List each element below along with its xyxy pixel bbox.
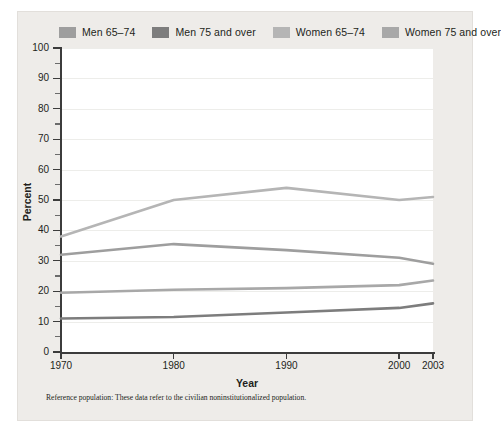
x-tick-label: 2003 [410, 361, 456, 371]
gridline [61, 230, 433, 231]
legend-item-label: Men 65–74 [82, 27, 135, 38]
y-axis-line [60, 47, 62, 353]
legend-swatch-men-65-74 [59, 27, 76, 38]
legend-swatch-women-65-74 [273, 27, 290, 38]
y-tick-label: 100 [19, 43, 49, 53]
y-tick-label: 30 [19, 256, 49, 266]
gridline [61, 291, 433, 292]
gridline [61, 139, 433, 140]
x-axis-title: Year [61, 377, 433, 389]
gridline [61, 109, 433, 110]
y-axis-title: Percent [21, 172, 33, 232]
legend-swatch-men-75-over [152, 27, 169, 38]
gridline [61, 261, 433, 262]
gridline [61, 170, 433, 171]
legend-item[interactable]: Women 65–74 [273, 27, 365, 38]
legend-item-label: Women 65–74 [296, 27, 365, 38]
legend-item-label: Men 75 and over [175, 27, 255, 38]
legend-swatch-women-75-over [382, 27, 399, 38]
x-tick-label: 1970 [38, 361, 84, 371]
legend-item[interactable]: Men 65–74 [59, 27, 135, 38]
y-tick-label: 20 [19, 286, 49, 296]
gridline [61, 78, 433, 79]
y-tick-label: 70 [19, 134, 49, 144]
gridline [61, 322, 433, 323]
gridline [61, 200, 433, 201]
y-tick-label: 0 [19, 347, 49, 357]
x-axis-line [60, 352, 435, 354]
y-tick-label: 90 [19, 73, 49, 83]
chart-legend: Men 65–74Men 75 and overWomen 65–74Women… [17, 24, 473, 40]
legend-item-label: Women 75 and over [405, 27, 501, 38]
x-tick-label: 1990 [263, 361, 309, 371]
gridline [61, 48, 433, 49]
legend-item[interactable]: Men 75 and over [152, 27, 255, 38]
legend-item[interactable]: Women 75 and over [382, 27, 501, 38]
y-tick-label: 80 [19, 104, 49, 114]
y-tick-label: 10 [19, 317, 49, 327]
x-tick-label: 1980 [151, 361, 197, 371]
chart-footnote: Reference population: These data refer t… [46, 393, 446, 402]
